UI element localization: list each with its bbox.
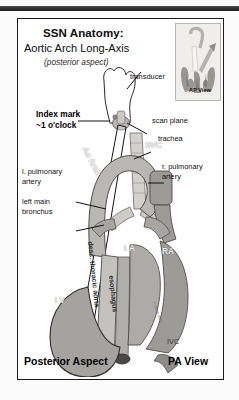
callout-r-pulmonary-artery-line2: artery bbox=[162, 172, 181, 181]
callout-r-pulmonary-artery-line1: r. pulmonary bbox=[162, 162, 203, 171]
figure-title-line1: SSN Anatomy: bbox=[43, 27, 124, 39]
callout-transducer: transducer bbox=[130, 72, 165, 81]
callout-index-mark-line1: Index mark bbox=[36, 109, 80, 119]
callout-index-mark-line2: ~1 o'clock bbox=[36, 120, 76, 130]
figure-page: SSN Anatomy: Aortic Arch Long-Axis (post… bbox=[0, 0, 239, 400]
callout-scan-plane: scan plane bbox=[152, 116, 188, 125]
label-la: LA bbox=[124, 244, 135, 253]
footer-posterior-aspect: Posterior Aspect bbox=[24, 355, 108, 367]
anatomy-illustration bbox=[18, 59, 223, 377]
callout-l-pulmonary-artery-line1: l. pulmonary bbox=[22, 167, 62, 176]
figure-card: SSN Anatomy: Aortic Arch Long-Axis (post… bbox=[17, 18, 224, 380]
callout-l-pulmonary-artery-line2: artery bbox=[22, 177, 41, 186]
callout-left-main-bronchus-line2: bronchus bbox=[22, 207, 52, 216]
figure-title-line2: Aortic Arch Long-Axis bbox=[24, 42, 129, 54]
callout-left-main-bronchus-line1: left main bbox=[22, 197, 50, 206]
top-divider-rule bbox=[0, 6, 239, 11]
label-lv: LV bbox=[55, 296, 65, 305]
label-ra: RA bbox=[162, 247, 174, 256]
index-mark-dot bbox=[113, 115, 117, 119]
footer-pa-view: PA View bbox=[168, 355, 208, 367]
label-ivc: IVC bbox=[167, 337, 179, 346]
label-svc: SVC bbox=[145, 141, 162, 150]
